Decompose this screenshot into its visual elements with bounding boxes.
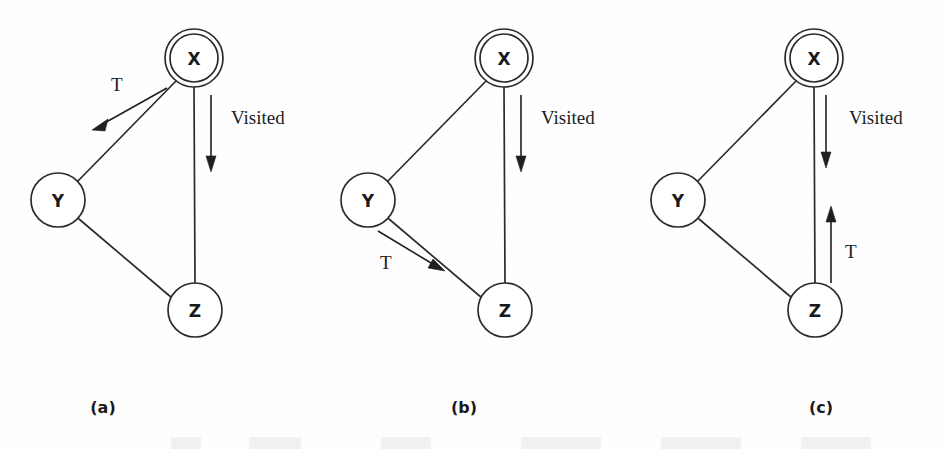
arrow-visited-label: Visited (231, 107, 285, 128)
node-y[interactable]: Y (31, 173, 85, 227)
diagram-panel-a: X Y Z T Visited (0, 0, 316, 449)
arrow-t (92, 88, 167, 131)
edge-y-z (79, 219, 172, 298)
node-z[interactable]: Z (788, 283, 842, 337)
arrow-visited-head (206, 156, 216, 172)
arrow-t-label: T (111, 74, 123, 95)
graph-svg-c: X Y Z Visited T (620, 0, 936, 400)
diagram-panel-b: X Y Z T Visited (b) (310, 0, 626, 449)
arrow-visited (821, 95, 831, 168)
edge-y-z (389, 219, 482, 298)
edge-x-z (504, 87, 505, 283)
node-y-label: Y (51, 191, 65, 211)
node-z-label: Z (499, 301, 511, 321)
edge-y-z (699, 219, 792, 298)
arrow-t-label: T (380, 252, 392, 273)
node-z[interactable]: Z (478, 283, 532, 337)
graph-svg-b: X Y Z T Visited (310, 0, 626, 400)
node-x-label: X (497, 49, 510, 69)
graph-svg-a: X Y Z T Visited (0, 0, 316, 400)
node-y[interactable]: Y (341, 173, 395, 227)
panel-caption-c: (c) (663, 398, 948, 417)
edge-x-z (194, 87, 195, 283)
node-x-label: X (807, 49, 820, 69)
node-z-label: Z (809, 301, 821, 321)
node-y[interactable]: Y (651, 173, 705, 227)
scan-artifact-strip (0, 437, 948, 449)
node-z[interactable]: Z (168, 283, 222, 337)
node-y-label: Y (671, 191, 685, 211)
edge-x-y (697, 81, 796, 182)
node-y-label: Y (361, 191, 375, 211)
node-x[interactable]: X (475, 29, 533, 87)
diagram-panel-c: X Y Z Visited T (c) (620, 0, 936, 449)
node-z-label: Z (189, 301, 201, 321)
edge-x-y (77, 81, 176, 182)
panel-caption-a: (a) (0, 398, 261, 417)
arrow-visited-label: Visited (541, 107, 595, 128)
arrow-visited (516, 95, 526, 172)
edge-x-z (814, 87, 815, 283)
arrow-t-head (826, 206, 836, 222)
arrow-t-label: T (845, 241, 857, 262)
panel-caption-b: (b) (306, 398, 622, 417)
node-x[interactable]: X (785, 29, 843, 87)
arrow-t (826, 206, 836, 283)
edge-x-y (387, 81, 486, 182)
arrow-visited-head (821, 152, 831, 168)
arrow-t-head (92, 119, 108, 131)
arrow-visited-head (516, 156, 526, 172)
arrow-visited (206, 95, 216, 172)
figure-root: X Y Z T Visited (0, 0, 948, 449)
node-x-label: X (187, 49, 200, 69)
arrow-visited-label: Visited (849, 107, 903, 128)
node-x[interactable]: X (165, 29, 223, 87)
